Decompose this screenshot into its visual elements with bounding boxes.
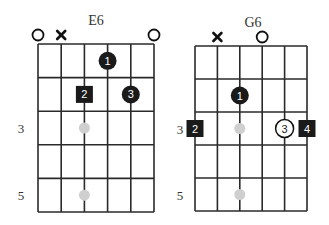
finger-3-marker: 3 xyxy=(122,85,140,103)
fret-number-label: 5 xyxy=(18,188,25,203)
chord-title: E6 xyxy=(88,13,104,28)
finger-number: 2 xyxy=(81,88,87,100)
finger-number: 1 xyxy=(105,55,111,67)
chord-diagram-e6: E635123 xyxy=(18,13,160,212)
open-string-icon xyxy=(149,30,160,41)
fretboard-grid xyxy=(38,44,154,212)
finger-number: 2 xyxy=(192,123,198,135)
fret-number-label: 3 xyxy=(177,122,184,137)
chord-title: G6 xyxy=(244,15,261,30)
chord-diagrams-canvas: E635123G6351234 xyxy=(0,0,329,225)
position-marker-dot xyxy=(79,190,90,201)
finger-number: 4 xyxy=(304,123,310,135)
finger-number: 3 xyxy=(282,123,288,135)
fret-number-label: 3 xyxy=(18,121,25,136)
finger-4-marker: 4 xyxy=(299,120,316,137)
finger-2-marker: 2 xyxy=(187,120,204,137)
open-string-icon xyxy=(33,30,44,41)
position-marker-dot xyxy=(234,189,245,200)
finger-3-marker: 3 xyxy=(276,120,294,138)
finger-1-marker: 1 xyxy=(231,87,249,105)
fret-number-label: 5 xyxy=(177,188,184,203)
position-marker-dot xyxy=(79,123,90,134)
muted-string-icon xyxy=(213,33,221,41)
finger-2-marker: 2 xyxy=(76,86,93,103)
finger-1-marker: 1 xyxy=(99,52,117,70)
finger-number: 3 xyxy=(128,88,134,100)
muted-string-icon xyxy=(57,31,65,39)
open-string-icon xyxy=(257,32,268,43)
chord-diagram-g6: G6351234 xyxy=(177,15,316,211)
finger-number: 1 xyxy=(237,90,243,102)
position-marker-dot xyxy=(234,123,245,134)
